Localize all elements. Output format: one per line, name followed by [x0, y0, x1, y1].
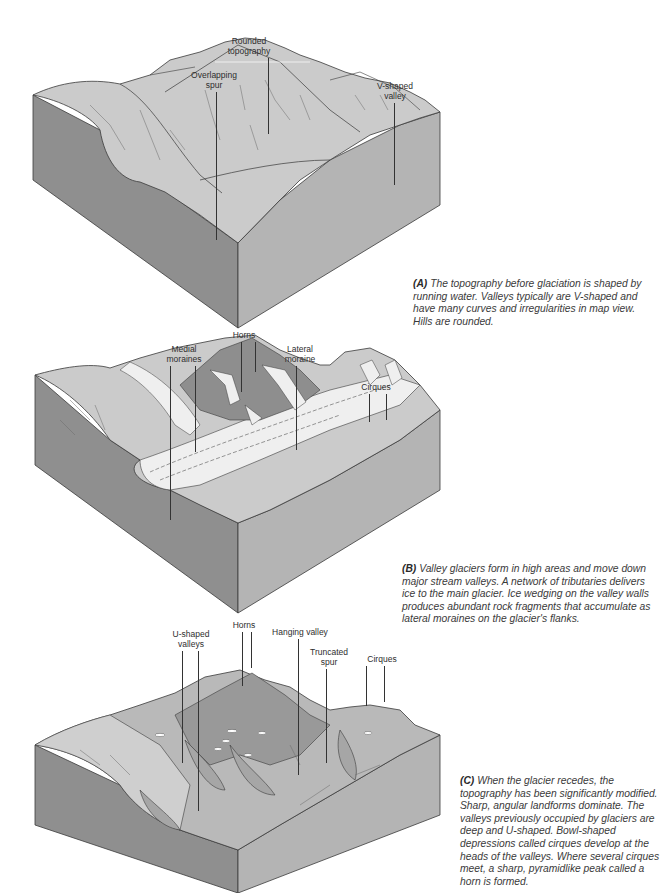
leader-line [384, 666, 385, 702]
leader-line [394, 103, 395, 185]
caption-tag-a: (A) [413, 278, 427, 289]
leader-line [198, 651, 199, 811]
leader-line [386, 394, 387, 420]
label-u-shaped-valleys: U-shaped valleys [167, 629, 215, 649]
leader-line [326, 669, 327, 763]
label-overlapping-spur: Overlapping spur [184, 70, 244, 90]
label-rounded-topography: Rounded topography [217, 36, 281, 56]
caption-c: (C) When the glacier recedes, the topogr… [460, 775, 660, 888]
caption-text-c: When the glacier recedes, the topography… [460, 775, 659, 887]
label-v-shaped-valley: V-shaped valley [370, 81, 420, 101]
leader-line [366, 666, 367, 706]
leader-line [216, 92, 217, 240]
label-hanging-valley: Hanging valley [268, 627, 332, 637]
panel-c-post-glaciation: Horns U-shaped valleys Hanging valley Tr… [0, 615, 663, 893]
leader-line [242, 632, 243, 686]
label-horns: Horns [226, 330, 262, 340]
leader-line [296, 366, 297, 450]
caption-tag-c: (C) [460, 775, 474, 786]
leader-line [241, 342, 242, 392]
caption-a: (A) The topography before glaciation is … [413, 278, 648, 328]
caption-tag-b: (B) [402, 563, 416, 574]
label-horns: Horns [226, 620, 262, 630]
caption-text-a: The topography before glaciation is shap… [413, 278, 641, 327]
leader-line [251, 632, 252, 668]
leader-line [369, 394, 370, 422]
leader-line [170, 366, 171, 520]
label-medial-moraines: Medial moraines [160, 344, 208, 364]
panel-a-pre-glaciation: Rounded topography Overlapping spur V-sh… [0, 0, 663, 330]
panel-b-valley-glaciers: Horns Medial moraines Lateral moraine Ci… [0, 330, 663, 615]
label-cirques: Cirques [356, 382, 396, 392]
label-truncated-spur: Truncated spur [306, 647, 352, 667]
leader-line [195, 366, 196, 452]
leader-line [268, 58, 269, 134]
leader-line [298, 639, 299, 775]
label-lateral-moraine: Lateral moraine [280, 344, 320, 364]
leader-line [182, 651, 183, 763]
label-cirques: Cirques [362, 654, 402, 664]
leader-line [255, 342, 256, 372]
